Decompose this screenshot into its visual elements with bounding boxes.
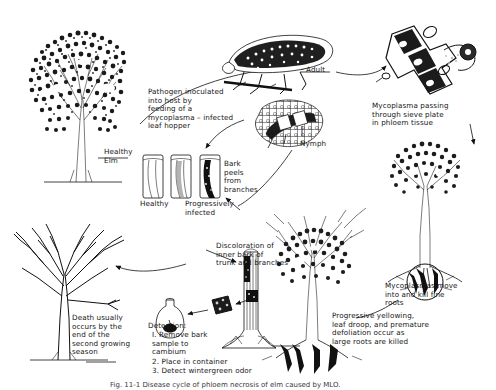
arrow-chip-to-jar [188,310,208,314]
defoliating-elm-illustration [250,208,366,374]
figure-caption: Fig. 11-1 Disease cycle of phloem necros… [110,381,340,389]
bark-sample-infected [200,155,220,198]
label-death: Death usually occurs by the end of the s… [72,314,152,357]
arrow-to-dead-elm [116,264,186,271]
label-bark-peels: Bark peels from branches [224,160,258,194]
detection-step-1: I. Remove bark sample to cambium [152,331,238,357]
label-discoloration: Discoloration of inner bark of trunk and… [216,242,308,268]
detection-step-3: 3. Detect wintergreen odor [152,367,302,376]
arrow-hopper-to-sieve [336,66,386,75]
bark-sample-healthy [143,155,163,198]
figure-canvas: Healthy Elm Pathogen inoculated into hos… [0,0,496,390]
label-progressive-yellowing: Progressive yellowing, leaf droop, and p… [332,312,494,346]
label-healthy-elm: Healthy Elm [104,148,133,165]
sieve-plate-illustration [376,24,476,94]
infected-elm-upper-illustration [388,142,462,300]
label-nymph: Nymph [300,140,326,149]
bark-sample-mid [171,155,191,198]
label-bark-healthy: Healthy [140,200,169,209]
label-roots-killed: Mycoplasmas move into and kill fine root… [385,282,491,308]
label-adult: Adult [306,66,325,75]
label-bark-infected: Progressively infected [185,200,249,217]
label-mycoplasma-sieve-plate: Mycoplasma passing through sieve plate i… [372,102,490,128]
bark-chip [212,296,232,314]
label-pathogen-inoculation: Pathogen inoculated into host by feeding… [148,88,256,131]
